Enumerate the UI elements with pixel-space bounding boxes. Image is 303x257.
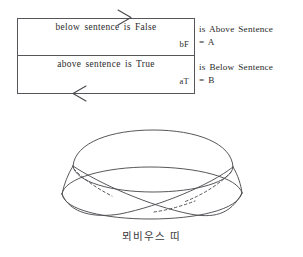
lower-sentence-text: above sentence is True (18, 59, 194, 69)
mobius-band-illustration (50, 122, 255, 227)
mobius-twist-edge-a (73, 166, 242, 216)
lower-cell-tag: aT (180, 76, 189, 86)
paradox-cell-lower: above sentence is True aT (18, 56, 194, 93)
annotation-lower: is Below Sentence = B (199, 61, 303, 86)
mobius-lower-rim-back (62, 167, 242, 194)
annotation-upper-label: is Above Sentence (199, 24, 273, 34)
mobius-hidden-edge-right (184, 172, 231, 202)
mobius-paradox-figure: below sentence is False bF above sentenc… (0, 0, 303, 257)
upper-sentence-text: below sentence is False (18, 22, 194, 32)
mobius-upper-rim-back (73, 130, 233, 167)
annotation-upper: is Above Sentence = A (199, 23, 303, 48)
mobius-upper-rim-front (73, 166, 233, 192)
mobius-hidden-edge-left (74, 169, 112, 196)
upper-cell-tag: bF (180, 39, 189, 49)
figure-caption: 뫼비우스 띠 (0, 228, 303, 243)
paradox-cell-upper: below sentence is False bF (18, 19, 194, 56)
annotation-lower-label: is Below Sentence (199, 62, 273, 72)
mobius-twist-edge-b (62, 167, 233, 215)
annotation-lower-equals: = B (199, 74, 303, 87)
annotation-upper-equals: = A (199, 36, 303, 49)
